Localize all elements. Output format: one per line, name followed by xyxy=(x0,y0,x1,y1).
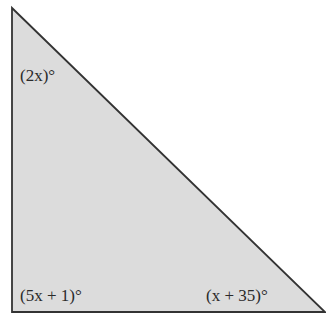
triangle-diagram: (2x)° (5x + 1)° (x + 35)° xyxy=(0,0,326,320)
angle-label-bottom-left: (5x + 1)° xyxy=(20,286,82,305)
triangle-shape xyxy=(12,8,325,312)
angle-label-top: (2x)° xyxy=(20,66,55,85)
angle-label-bottom-right: (x + 35)° xyxy=(206,286,268,305)
